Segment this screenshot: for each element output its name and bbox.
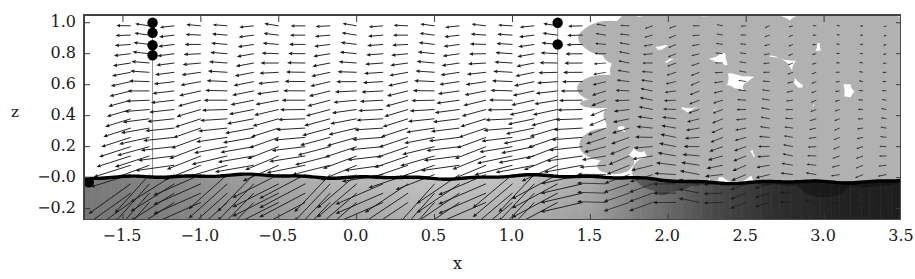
x-tick-label: 0.0	[316, 228, 396, 244]
x-tick-label: 3.5	[861, 228, 915, 244]
figure-container: z x −0.2−0.00.20.40.60.81.0 −1.5−1.0−0.5…	[0, 0, 915, 279]
x-tick-label: −1.5	[82, 228, 162, 244]
x-tick-label: 2.5	[705, 228, 785, 244]
y-tick-label: 0.6	[12, 76, 76, 92]
y-tick-label: −0.2	[12, 200, 76, 216]
x-tick-label: −1.0	[160, 228, 240, 244]
quiver-plot	[84, 15, 901, 220]
probe-marker	[147, 50, 157, 60]
sample-stems	[153, 18, 558, 177]
x-axis-label: x	[0, 254, 915, 273]
y-tick-label: 0.2	[12, 138, 76, 154]
x-tick-label: 1.5	[549, 228, 629, 244]
x-tick-label: 2.0	[627, 228, 707, 244]
probe-marker	[552, 18, 562, 28]
x-tick-label: 1.0	[471, 228, 551, 244]
x-tick-label: 0.5	[394, 228, 474, 244]
probe-marker	[552, 39, 562, 49]
probe-marker	[147, 18, 157, 28]
plot-area	[83, 14, 901, 220]
y-tick-label: 0.4	[12, 107, 76, 123]
y-tick-label: 1.0	[12, 14, 76, 30]
probe-marker	[147, 40, 157, 50]
x-tick-label: 3.0	[783, 228, 863, 244]
y-tick-label: −0.0	[12, 169, 76, 185]
x-tick-labels: −1.5−1.0−0.50.00.51.01.52.02.53.03.5	[0, 228, 915, 252]
probe-marker	[147, 28, 157, 38]
x-tick-label: −0.5	[238, 228, 318, 244]
y-tick-label: 0.8	[12, 45, 76, 61]
field-texture	[577, 15, 901, 197]
